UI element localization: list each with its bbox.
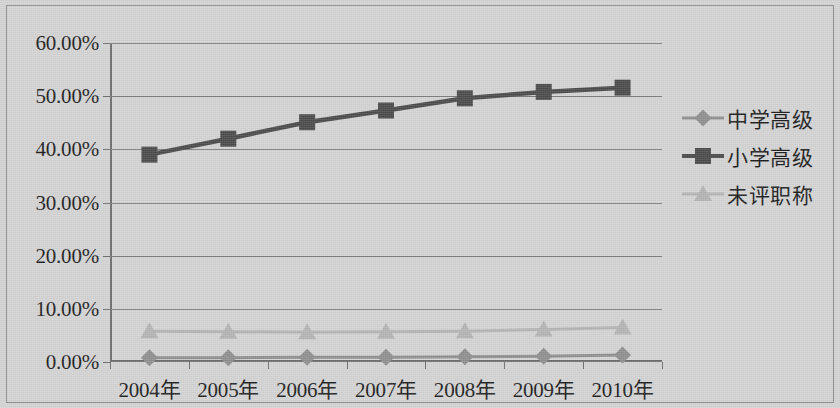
data-point-marker (695, 110, 712, 127)
legend-item[interactable]: 小学高级 (681, 137, 831, 175)
data-point-marker (615, 80, 631, 96)
x-axis-tick (268, 362, 269, 369)
chart-container: 0.00%10.00%20.00%30.00%40.00%50.00%60.00… (0, 0, 840, 408)
y-axis-tick-label: 0.00% (46, 350, 99, 375)
x-axis-tick (110, 362, 111, 369)
y-axis-tick (103, 309, 110, 310)
data-point-marker (378, 103, 394, 119)
data-series-layer (110, 43, 662, 362)
x-axis-tick (189, 362, 190, 369)
x-axis-tick (662, 362, 663, 369)
data-point-marker (695, 148, 711, 164)
data-point-marker (141, 147, 157, 163)
y-axis-tick-label: 40.00% (35, 137, 99, 162)
x-axis-tick-label: 2009年 (513, 373, 575, 403)
x-axis-tick-label: 2006年 (276, 373, 338, 403)
y-axis-tick-label: 60.00% (35, 31, 99, 56)
legend-item-label: 小学高级 (727, 141, 813, 171)
y-axis-tick-label: 20.00% (35, 243, 99, 268)
data-point-marker (614, 347, 631, 364)
legend-item[interactable]: 中学高级 (681, 99, 831, 137)
y-axis-tick (103, 256, 110, 257)
y-axis-tick (103, 43, 110, 44)
y-axis-tick (103, 149, 110, 150)
y-axis-tick (103, 203, 110, 204)
legend-marker-triangle-icon (681, 184, 725, 204)
data-point-marker (536, 84, 552, 100)
legend-marker-diamond-icon (681, 108, 725, 128)
y-axis-tick-label: 10.00% (35, 296, 99, 321)
legend-item-label: 中学高级 (727, 103, 813, 133)
y-axis-tick-label: 50.00% (35, 84, 99, 109)
y-axis-tick-label: 30.00% (35, 190, 99, 215)
plot-area: 0.00%10.00%20.00%30.00%40.00%50.00%60.00… (110, 43, 662, 362)
data-point-marker (220, 131, 236, 147)
y-axis-tick (103, 362, 110, 363)
data-point-marker (457, 90, 473, 106)
x-axis-tick-label: 2007年 (355, 373, 417, 403)
x-axis-tick (583, 362, 584, 369)
legend-marker-square-icon (681, 146, 725, 166)
legend-item[interactable]: 未评职称 (681, 175, 831, 213)
x-axis-tick-label: 2010年 (592, 373, 654, 403)
x-axis-tick-label: 2005年 (197, 373, 259, 403)
legend-item-label: 未评职称 (727, 179, 813, 209)
y-axis-tick (103, 96, 110, 97)
x-axis-tick-label: 2008年 (434, 373, 496, 403)
x-axis-tick (504, 362, 505, 369)
x-axis-tick-label: 2004年 (118, 373, 180, 403)
chart-legend: 中学高级小学高级未评职称 (681, 99, 831, 213)
data-point-marker (299, 114, 315, 130)
x-axis-tick (425, 362, 426, 369)
series-square (141, 80, 630, 163)
x-axis-tick (347, 362, 348, 369)
series-triangle (140, 318, 631, 339)
